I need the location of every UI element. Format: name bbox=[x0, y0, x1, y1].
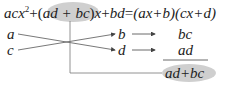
cross-right-top: b bbox=[118, 27, 126, 42]
equals-sign: = bbox=[125, 5, 133, 21]
middle-coefficient: ad + bc bbox=[43, 5, 90, 21]
cross-left-bottom: c bbox=[7, 43, 14, 58]
plus-sign: + bbox=[101, 5, 109, 21]
product-ad: ad bbox=[178, 43, 193, 58]
term-bd: bd bbox=[110, 5, 125, 21]
cross-left-top: a bbox=[7, 27, 15, 42]
product-bc: bc bbox=[178, 27, 192, 42]
factoring-equation: acx2+(ad + bc)x+bd=(ax+b)(cx+d) bbox=[4, 4, 216, 22]
product-sum: ad+bc bbox=[165, 66, 204, 81]
factored-form: (ax+b)(cx+d) bbox=[133, 5, 216, 21]
cross-right-bottom: d bbox=[118, 43, 126, 58]
term-acx: acx bbox=[4, 5, 25, 21]
plus-sign: + bbox=[29, 5, 37, 21]
